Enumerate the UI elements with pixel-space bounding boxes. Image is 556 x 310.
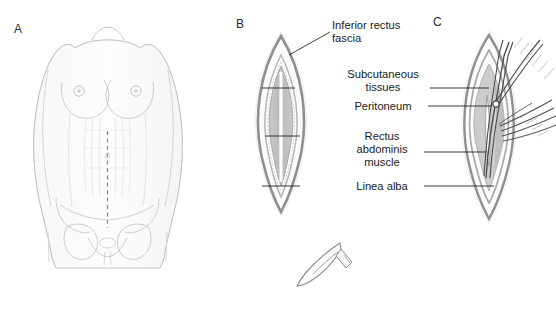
label-subcutaneous-tissues: Subcutaneous tissues xyxy=(335,68,431,94)
panel-b-incision xyxy=(255,32,306,216)
scalpel-handle xyxy=(336,249,352,268)
scalpel-blade xyxy=(297,243,341,286)
label-peritoneum: Peritoneum xyxy=(338,100,428,113)
panel-letter-c: C xyxy=(433,15,442,29)
panel-letter-a: A xyxy=(14,22,22,36)
scalpel-instrument xyxy=(297,243,352,286)
panel-a-torso xyxy=(34,27,183,268)
panel-letter-b: B xyxy=(236,17,244,31)
panel-c-dissection xyxy=(462,30,556,224)
label-inferior-rectus-fascia: Inferior rectus fascia xyxy=(332,19,400,45)
leader-inferior-rectus-fascia xyxy=(289,32,330,55)
label-linea-alba: Linea alba xyxy=(337,180,427,193)
scissors-pivot xyxy=(493,101,499,107)
label-rectus-abdominis-muscle: Rectus abdominis muscle xyxy=(342,130,422,170)
medical-illustration-figure: A B C Inferior rectus fascia Subcutaneou… xyxy=(0,0,556,310)
illustration-canvas xyxy=(0,0,556,310)
